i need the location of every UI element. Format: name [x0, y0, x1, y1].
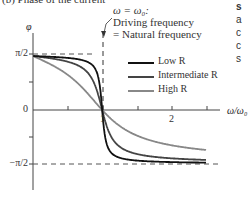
side-text-5: s [236, 52, 242, 65]
x-tick-1: 1 [100, 113, 105, 124]
y-axis-label: φ [26, 21, 32, 32]
side-text-4: c [236, 39, 242, 52]
legend-label-high: High R [158, 83, 187, 94]
legend-swatch-high [128, 90, 154, 92]
adjacent-text-fragment: s a c c s [236, 0, 242, 65]
y-tick-neg-pi-half: −π/2 [0, 157, 28, 168]
legend-swatch-low [128, 62, 154, 64]
x-tick-2: 2 [169, 113, 174, 124]
y-tick-zero: 0 [0, 103, 28, 114]
y-tick-pi-half: π/2 [0, 47, 28, 58]
side-text-2: a [236, 13, 242, 26]
legend-swatch-intermediate [128, 76, 154, 78]
annotation-arrow [104, 18, 112, 33]
legend-label-low: Low R [158, 55, 186, 66]
legend-label-intermediate: Intermediate R [158, 69, 218, 80]
phase-plot [0, 0, 249, 203]
x-axis-label: ω/ω₀ [227, 105, 247, 116]
side-text-3: c [236, 26, 242, 39]
side-text-1: s [236, 0, 242, 13]
